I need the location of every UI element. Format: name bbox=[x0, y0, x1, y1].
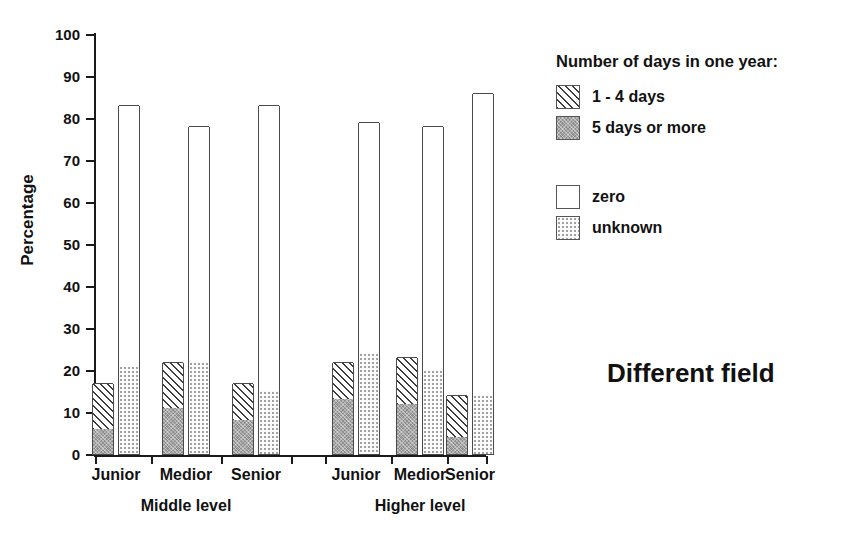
x-group-label-1: Higher level bbox=[340, 497, 500, 515]
y-tick-70 bbox=[86, 160, 94, 162]
legend-items: 1 - 4 days5 days or morezerounknown bbox=[556, 85, 856, 240]
bar-segment-5-days-or-more bbox=[447, 437, 467, 454]
legend-item-1-4-days: 1 - 4 days bbox=[556, 85, 856, 109]
y-tick-30 bbox=[86, 328, 94, 330]
legend-label: zero bbox=[592, 188, 625, 206]
y-tick-50 bbox=[86, 244, 94, 246]
y-tick-20 bbox=[86, 370, 94, 372]
field-title-annotation: Different field bbox=[607, 358, 775, 389]
legend-swatch-icon bbox=[556, 185, 580, 209]
y-tick-label-10: 10 bbox=[36, 405, 80, 420]
legend-label: 1 - 4 days bbox=[592, 88, 665, 106]
legend-item-unknown: unknown bbox=[556, 216, 856, 240]
x-tick-4 bbox=[325, 456, 327, 464]
chart-figure: Percentage 0102030405060708090100 Junior… bbox=[0, 0, 856, 545]
y-tick-label-60: 60 bbox=[36, 195, 80, 210]
x-category-label-2: Senior bbox=[211, 466, 301, 484]
x-tick-0 bbox=[95, 456, 97, 464]
legend-title: Number of days in one year: bbox=[556, 52, 856, 71]
chart-legend: Number of days in one year: 1 - 4 days5 … bbox=[556, 52, 856, 247]
x-category-label-5: Senior bbox=[425, 466, 515, 484]
legend-swatch-icon bbox=[556, 216, 580, 240]
y-axis-tick-labels: 0102030405060708090100 bbox=[28, 0, 80, 545]
legend-swatch-icon bbox=[556, 85, 580, 109]
y-tick-label-70: 70 bbox=[36, 153, 80, 168]
y-tick-40 bbox=[86, 286, 94, 288]
y-tick-label-100: 100 bbox=[36, 27, 80, 42]
y-tick-60 bbox=[86, 202, 94, 204]
y-tick-90 bbox=[86, 76, 94, 78]
y-tick-label-90: 90 bbox=[36, 69, 80, 84]
x-tick-2 bbox=[221, 456, 223, 464]
y-tick-label-80: 80 bbox=[36, 111, 80, 126]
legend-swatch-icon bbox=[556, 116, 580, 140]
bar-zero-unknown-5 bbox=[472, 94, 494, 455]
y-tick-80 bbox=[86, 118, 94, 120]
bar-days-5 bbox=[446, 396, 468, 455]
y-tick-label-0: 0 bbox=[36, 447, 80, 462]
plot-area bbox=[95, 35, 485, 455]
bar-segment-unknown bbox=[473, 395, 493, 454]
x-tick-3 bbox=[291, 456, 293, 464]
y-tick-label-20: 20 bbox=[36, 363, 80, 378]
x-group-label-0: Middle level bbox=[106, 497, 266, 515]
y-tick-label-50: 50 bbox=[36, 237, 80, 252]
bar-segment-zero bbox=[473, 93, 493, 395]
legend-spacer bbox=[556, 147, 856, 185]
x-tick-6 bbox=[447, 456, 449, 464]
y-tick-100 bbox=[86, 34, 94, 36]
bar-segment-1-4-days bbox=[447, 395, 467, 437]
legend-label: 5 days or more bbox=[592, 119, 706, 137]
legend-item-zero: zero bbox=[556, 185, 856, 209]
x-tick-1 bbox=[151, 456, 153, 464]
y-tick-label-40: 40 bbox=[36, 279, 80, 294]
legend-label: unknown bbox=[592, 219, 662, 237]
y-tick-label-30: 30 bbox=[36, 321, 80, 336]
bar-group-5 bbox=[95, 35, 485, 455]
x-tick-7 bbox=[486, 456, 488, 464]
legend-item-5-days-or-more: 5 days or more bbox=[556, 116, 856, 140]
x-tick-5 bbox=[391, 456, 393, 464]
